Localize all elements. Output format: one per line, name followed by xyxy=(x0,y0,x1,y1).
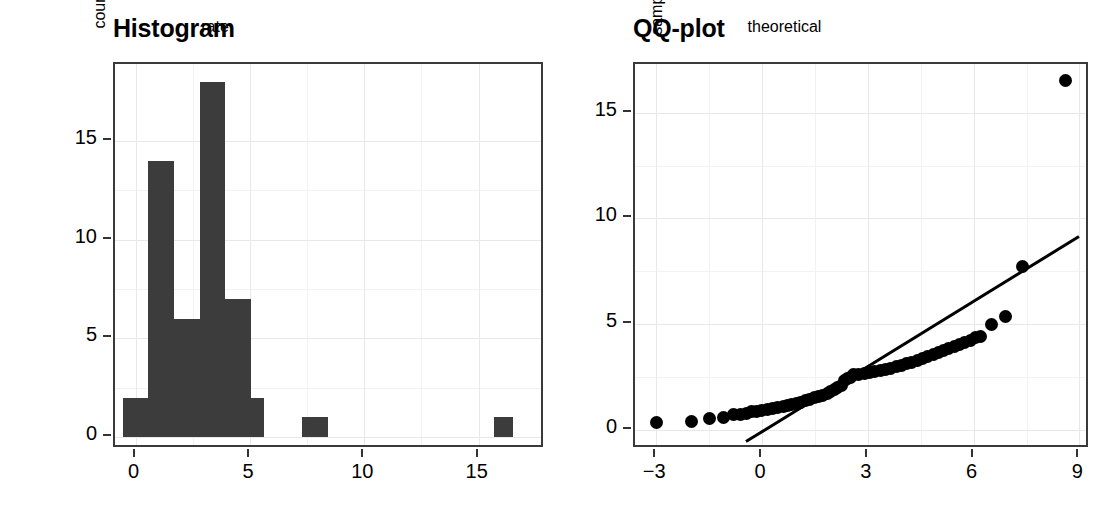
gridline-horizontal xyxy=(635,324,1086,325)
histogram-x-tick-mark xyxy=(247,449,249,457)
histogram-bar xyxy=(148,161,174,437)
histogram-y-tick-label: 15 xyxy=(37,126,97,149)
gridline-horizontal xyxy=(635,218,1086,219)
histogram-bar xyxy=(251,398,264,437)
histogram-y-tick-mark xyxy=(103,434,111,436)
gridline-vertical xyxy=(307,64,308,445)
qqplot-x-tick-label: 9 xyxy=(1047,460,1107,483)
qqplot-data-point xyxy=(650,416,663,429)
histogram-bar xyxy=(174,319,200,437)
gridline-horizontal xyxy=(115,190,541,191)
qqplot-x-tick-label: −3 xyxy=(624,460,684,483)
qqplot-y-tick-label: 5 xyxy=(557,309,617,332)
gridline-horizontal xyxy=(115,437,541,438)
histogram-x-tick-label: 15 xyxy=(447,460,507,483)
qqplot-y-tick-mark xyxy=(623,110,631,112)
qqplot-data-point xyxy=(1059,74,1072,87)
qqplot-x-tick-mark xyxy=(865,449,867,457)
qqplot-data-point xyxy=(703,412,716,425)
gridline-horizontal xyxy=(635,113,1086,114)
qqplot-x-tick-label: 0 xyxy=(730,460,790,483)
qqplot-data-point xyxy=(985,318,998,331)
qqplot-data-point xyxy=(999,310,1012,323)
qqplot-x-tick-label: 3 xyxy=(836,460,896,483)
histogram-y-tick-label: 10 xyxy=(37,225,97,248)
histogram-x-tick-mark xyxy=(133,449,135,457)
gridline-vertical xyxy=(974,64,975,445)
qqplot-y-tick-label: 0 xyxy=(557,415,617,438)
gridline-vertical xyxy=(921,64,922,445)
gridline-horizontal xyxy=(635,166,1086,167)
histogram-title: Histogram xyxy=(113,14,235,43)
qqplot-y-tick-mark xyxy=(623,215,631,217)
gridline-vertical xyxy=(709,64,710,445)
qqplot-reference-line xyxy=(745,235,1080,443)
histogram-y-tick-label: 0 xyxy=(37,422,97,445)
histogram-y-tick-mark xyxy=(103,237,111,239)
histogram-bar xyxy=(200,82,226,437)
gridline-horizontal xyxy=(115,289,541,290)
qqplot-x-axis-title: theoretical xyxy=(557,18,1012,36)
gridline-vertical xyxy=(421,64,422,445)
qqplot-x-tick-mark xyxy=(1076,449,1078,457)
histogram-plot-area xyxy=(113,62,543,447)
gridline-vertical xyxy=(479,64,480,445)
qqplot-data-point xyxy=(1016,260,1029,273)
histogram-x-tick-mark xyxy=(476,449,478,457)
qqplot-x-tick-mark xyxy=(971,449,973,457)
histogram-panel-wrapper: Histogram count rate 051015051015 xyxy=(0,0,557,527)
histogram-bar xyxy=(123,398,149,437)
qqplot-y-tick-mark xyxy=(623,427,631,429)
qqplot-data-point xyxy=(685,415,698,428)
qqplot-y-tick-label: 15 xyxy=(557,98,617,121)
histogram-bar xyxy=(225,299,251,437)
gridline-vertical xyxy=(656,64,657,445)
gridline-vertical xyxy=(1027,64,1028,445)
histogram-x-tick-mark xyxy=(361,449,363,457)
qqplot-panel-wrapper: QQ-plot sample theoretical −30369051015 xyxy=(557,0,1114,527)
gridline-vertical xyxy=(136,64,137,445)
histogram-y-tick-label: 5 xyxy=(37,323,97,346)
gridline-horizontal xyxy=(635,430,1086,431)
histogram-x-tick-label: 0 xyxy=(104,460,164,483)
histogram-x-tick-label: 10 xyxy=(332,460,392,483)
qqplot-x-tick-mark xyxy=(653,449,655,457)
qqplot-y-tick-mark xyxy=(623,321,631,323)
gridline-vertical xyxy=(762,64,763,445)
qqplot-y-axis-title: sample xyxy=(648,0,666,109)
histogram-bar xyxy=(494,417,513,437)
gridline-horizontal xyxy=(115,240,541,241)
figure-root: Histogram count rate 051015051015 QQ-plo… xyxy=(0,0,1114,527)
gridline-vertical xyxy=(1079,64,1080,445)
histogram-y-tick-mark xyxy=(103,138,111,140)
qqplot-data-point xyxy=(974,330,987,343)
qqplot-title: QQ-plot xyxy=(633,14,725,43)
histogram-y-axis-title: count xyxy=(91,0,109,109)
qqplot-plot-area xyxy=(633,62,1088,447)
histogram-y-tick-mark xyxy=(103,335,111,337)
gridline-vertical xyxy=(364,64,365,445)
qqplot-y-tick-label: 10 xyxy=(557,203,617,226)
qqplot-x-tick-label: 6 xyxy=(942,460,1002,483)
qqplot-x-tick-mark xyxy=(759,449,761,457)
gridline-vertical xyxy=(815,64,816,445)
gridline-vertical xyxy=(868,64,869,445)
gridline-horizontal xyxy=(115,141,541,142)
histogram-x-tick-label: 5 xyxy=(218,460,278,483)
histogram-bar xyxy=(302,417,328,437)
